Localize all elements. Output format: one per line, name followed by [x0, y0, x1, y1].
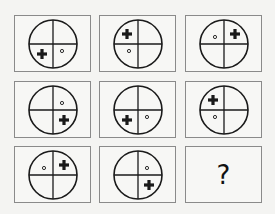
small-circle-icon: [127, 49, 130, 52]
puzzle-cell: [14, 15, 91, 72]
quadrant-circle: [15, 147, 90, 202]
small-circle-icon: [145, 115, 148, 118]
plus-icon: [122, 115, 132, 125]
puzzle-cell: [14, 146, 91, 203]
plus-icon: [144, 180, 154, 190]
plus-icon: [59, 115, 69, 125]
quadrant-circle: [186, 82, 261, 137]
quadrant-circle: [100, 16, 175, 71]
puzzle-cell: [185, 15, 262, 72]
small-circle-icon: [60, 101, 63, 104]
quadrant-circle: [15, 16, 90, 71]
plus-icon: [37, 49, 47, 59]
small-circle-icon: [213, 35, 216, 38]
answer-cell: ?: [185, 146, 262, 203]
puzzle-cell: [99, 81, 176, 138]
quadrant-circle: [186, 16, 261, 71]
plus-icon: [230, 29, 240, 39]
plus-icon: [208, 95, 218, 105]
small-circle-icon: [42, 166, 45, 169]
question-mark: ?: [186, 147, 261, 202]
puzzle-cell: [185, 81, 262, 138]
small-circle-icon: [60, 49, 63, 52]
quadrant-circle: [100, 147, 175, 202]
puzzle-cell: [99, 146, 176, 203]
plus-icon: [59, 160, 69, 170]
small-circle-icon: [213, 115, 216, 118]
puzzle-cell: [14, 81, 91, 138]
plus-icon: [122, 29, 132, 39]
quadrant-circle: [100, 82, 175, 137]
puzzle-cell: [99, 15, 176, 72]
small-circle-icon: [145, 166, 148, 169]
quadrant-circle: [15, 82, 90, 137]
